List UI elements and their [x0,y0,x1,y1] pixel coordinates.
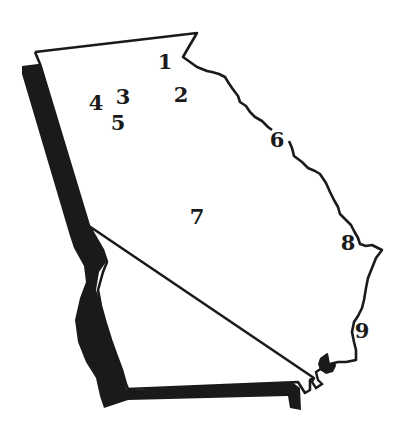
map-label-3: 3 [116,86,131,107]
map-label-8: 8 [341,232,356,253]
georgia-map [0,0,410,430]
map-label-4: 4 [89,92,104,113]
map-label-6: 6 [270,129,285,150]
map-label-7: 7 [190,206,205,227]
map-label-2: 2 [174,84,189,105]
map-label-5: 5 [111,112,126,133]
map-label-1: 1 [158,51,173,72]
map-label-9: 9 [355,320,370,341]
